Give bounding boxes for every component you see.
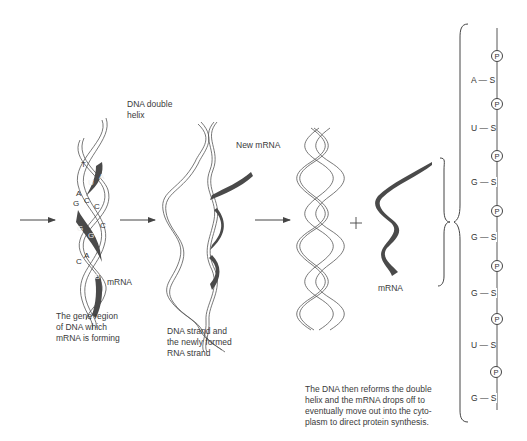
caption-line: DNA strand and <box>167 326 232 337</box>
nucleotide-row: A — S <box>471 75 495 85</box>
base-letter: U <box>471 340 477 350</box>
base-letter: C <box>76 257 82 266</box>
phosphate-icon: P <box>491 50 503 62</box>
caption-line: helix and the mRNA drops off to <box>305 395 432 406</box>
base-letter: A <box>99 172 104 181</box>
nucleotide-row: G — S <box>471 232 497 242</box>
mrna-label-stage1: mRNA <box>107 277 132 288</box>
nucleotide-row: G — S <box>471 393 497 403</box>
sugar-letter: S <box>491 232 497 242</box>
unwound-dna-strands <box>163 122 225 352</box>
nucleotide-row: U — S <box>471 123 496 133</box>
caption-line: mRNA is forming <box>56 333 120 344</box>
caption-stage3: The DNA then reforms the double helix an… <box>305 384 432 428</box>
base-letter: U <box>88 178 94 187</box>
nucleotide-row: G — S <box>471 177 497 187</box>
base-letter: T <box>81 160 86 169</box>
base-letter: G <box>88 231 94 240</box>
base-letter: G <box>73 199 79 208</box>
nucleotide-row: U — S <box>471 340 496 350</box>
sugar-letter: S <box>490 123 496 133</box>
reformed-dna-helix <box>297 128 345 330</box>
sugar-letter: S <box>490 340 496 350</box>
nucleotide-row: G — S <box>471 288 497 298</box>
mrna-label-stage3: mRNA <box>378 283 403 294</box>
phosphate-icon: P <box>491 313 503 325</box>
base-letter: G <box>77 224 83 233</box>
dna-double-helix-label: DNA double helix <box>127 99 172 121</box>
base-letter: C <box>84 196 90 205</box>
base-letter: G <box>471 232 478 242</box>
base-letter: G <box>471 288 478 298</box>
caption-line: eventually move out into the cyto- <box>305 406 432 417</box>
base-letter: G <box>471 393 478 403</box>
large-bracket <box>454 24 468 422</box>
phosphate-icon: P <box>491 98 503 110</box>
diagram-artwork <box>0 0 527 441</box>
caption-line: the newly formed <box>167 337 232 348</box>
base-letter: C <box>100 221 106 230</box>
caption-line: plasm to direct protein synthesis. <box>305 417 432 428</box>
base-letter: A <box>471 75 476 85</box>
caption-line: of DNA which <box>56 322 120 333</box>
sugar-letter: S <box>491 288 497 298</box>
label-line: DNA double <box>127 99 172 109</box>
plus-icon <box>350 217 362 229</box>
base-letter: G <box>471 177 478 187</box>
sugar-letter: S <box>489 75 495 85</box>
base-letter: A <box>84 251 89 260</box>
sugar-letter: S <box>491 177 497 187</box>
phosphate-icon: P <box>491 205 503 217</box>
phosphate-icon: P <box>490 366 502 378</box>
base-letter: G <box>94 272 100 281</box>
base-letter: U <box>471 123 477 133</box>
label-line: helix <box>127 110 144 120</box>
small-bracket <box>438 158 450 286</box>
phosphate-icon: P <box>491 150 503 162</box>
base-letter: C <box>94 202 100 211</box>
base-letter: A <box>76 189 81 198</box>
new-mrna-label: New mRNA <box>236 140 280 151</box>
caption-line: The DNA then reforms the double <box>305 384 432 395</box>
sugar-letter: S <box>491 393 497 403</box>
caption-line: The gene region <box>56 311 120 322</box>
phosphate-icon: P <box>491 260 503 272</box>
caption-stage2: DNA strand and the newly formed RNA stra… <box>167 326 232 359</box>
caption-stage1: The gene region of DNA which mRNA is for… <box>56 311 120 344</box>
caption-line: RNA strand <box>167 348 232 359</box>
released-mrna-ribbon <box>375 162 432 276</box>
